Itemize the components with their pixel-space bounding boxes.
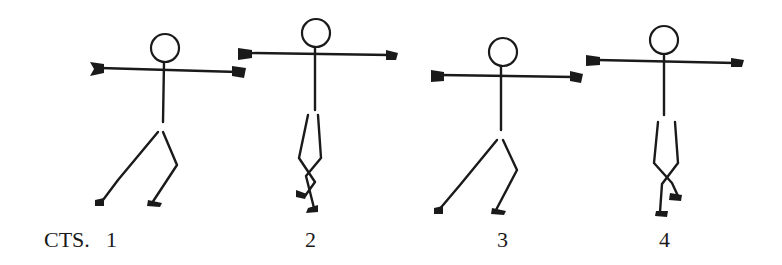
left-hand-icon: [90, 62, 104, 76]
left-foot-icon: [95, 198, 104, 206]
arms: [250, 53, 390, 55]
arms: [598, 60, 735, 63]
right-hand-icon: [232, 66, 246, 78]
right-hand-icon: [570, 71, 583, 83]
head: [489, 38, 517, 66]
count-2: 2: [305, 228, 316, 252]
dance-diagram: [0, 0, 782, 265]
stick-figure-4: [586, 26, 744, 217]
right-foot-icon: [655, 211, 668, 217]
left-foot-icon: [296, 190, 307, 199]
left-foot-icon: [669, 193, 682, 201]
left-hand-icon: [431, 70, 444, 82]
left-foot-icon: [434, 206, 443, 214]
left-hand-icon: [586, 55, 600, 66]
counts-label: CTS.: [44, 228, 90, 252]
right-leg: [152, 132, 177, 203]
left-leg: [438, 140, 497, 211]
count-4: 4: [659, 228, 670, 252]
stick-figure-2: [238, 19, 398, 213]
stick-figure-3: [431, 38, 583, 215]
stick-figure-1: [90, 34, 246, 207]
left-hand-icon: [238, 48, 252, 60]
arms: [440, 75, 574, 77]
left-leg: [654, 122, 678, 196]
right-leg: [306, 115, 321, 208]
right-hand-icon: [731, 58, 744, 67]
count-1: 1: [106, 228, 117, 252]
head: [151, 34, 179, 62]
right-leg: [496, 140, 517, 210]
count-3: 3: [497, 228, 508, 252]
right-foot-icon: [491, 208, 506, 215]
right-hand-icon: [386, 50, 398, 60]
head: [650, 26, 678, 54]
arms: [100, 68, 238, 72]
head: [302, 19, 330, 47]
torso: [163, 62, 164, 122]
right-foot-icon: [306, 205, 318, 213]
left-leg: [100, 132, 158, 204]
